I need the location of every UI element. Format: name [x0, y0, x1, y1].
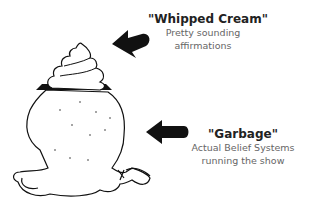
whipped-cream-title: "Whipped Cream"	[148, 12, 258, 26]
garbage-title: "Garbage"	[188, 127, 298, 141]
garbage-label: "Garbage" Actual Belief Systems running …	[188, 127, 298, 167]
whipped-cream-label: "Whipped Cream" Pretty sounding affirmat…	[148, 12, 258, 52]
garbage-desc-line2: running the show	[188, 154, 298, 167]
arrow-top-icon	[112, 30, 149, 58]
garbage-bag-icon	[14, 90, 150, 196]
arrow-bottom-icon	[146, 120, 189, 144]
garbage-desc-line1: Actual Belief Systems	[188, 141, 298, 154]
whipped-cream-desc-line1: Pretty sounding	[148, 26, 258, 39]
whipped-cream-icon	[36, 43, 112, 90]
whipped-cream-desc-line2: affirmations	[148, 39, 258, 52]
